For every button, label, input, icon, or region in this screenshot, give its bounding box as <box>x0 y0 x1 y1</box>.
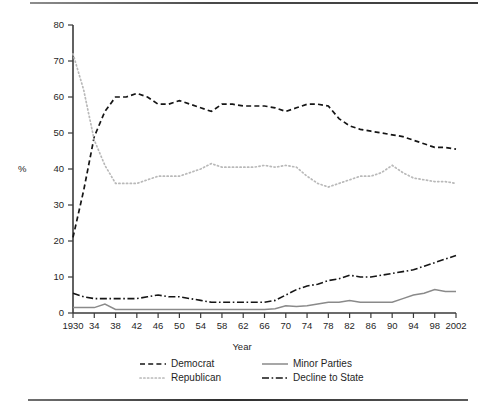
x-tick-label: 98 <box>429 320 440 331</box>
y-tick-label: 50 <box>53 127 64 138</box>
y-axis-tick-labels: 01020304050607080 <box>53 19 64 318</box>
y-tick-label: 0 <box>59 307 64 318</box>
y-tick-label: 60 <box>53 91 64 102</box>
x-tick-label: 86 <box>366 320 377 331</box>
x-tick-label: 66 <box>259 320 270 331</box>
y-tick-label: 80 <box>53 19 64 30</box>
x-tick-label: 82 <box>344 320 355 331</box>
x-tick-label: 2002 <box>445 320 466 331</box>
legend-label-decline-to-state: Decline to State <box>293 372 364 383</box>
x-tick-label: 62 <box>238 320 249 331</box>
chart-figure: 01020304050607080 1930343842465054586266… <box>0 0 485 414</box>
legend-label-republican: Republican <box>171 372 221 383</box>
bottom-divider-rule <box>28 399 468 401</box>
x-tick-label: 54 <box>195 320 206 331</box>
x-tick-label: 46 <box>153 320 164 331</box>
x-tick-label: 34 <box>89 320 100 331</box>
line-chart-plot: 01020304050607080 1930343842465054586266… <box>0 0 485 414</box>
x-tick-label: 42 <box>132 320 143 331</box>
x-tick-label: 58 <box>217 320 228 331</box>
x-tick-label: 70 <box>280 320 291 331</box>
chart-legend: DemocratRepublicanMinor PartiesDecline t… <box>140 358 364 383</box>
y-tick-label: 20 <box>53 235 64 246</box>
x-axis-label: Year <box>232 341 251 352</box>
legend-label-minor-parties: Minor Parties <box>293 358 352 369</box>
y-tick-label: 10 <box>53 271 64 282</box>
x-tick-label: 90 <box>387 320 398 331</box>
x-tick-label: 78 <box>323 320 334 331</box>
series-line-decline-to-state <box>73 255 456 302</box>
x-axis-tick-labels: 1930343842465054586266707478828690949820… <box>62 320 466 331</box>
legend-label-democrat: Democrat <box>171 358 215 369</box>
x-tick-label: 1930 <box>62 320 83 331</box>
y-tick-label: 30 <box>53 199 64 210</box>
x-tick-label: 94 <box>408 320 419 331</box>
x-tick-label: 50 <box>174 320 185 331</box>
series-line-minor-parties <box>73 290 456 310</box>
x-tick-label: 74 <box>302 320 313 331</box>
y-axis-label: % <box>18 163 27 174</box>
y-tick-label: 70 <box>53 55 64 66</box>
series-line-republican <box>73 54 456 187</box>
x-tick-label: 38 <box>110 320 121 331</box>
top-divider-rule <box>30 2 478 4</box>
y-tick-label: 40 <box>53 163 64 174</box>
data-series-group <box>73 54 456 310</box>
